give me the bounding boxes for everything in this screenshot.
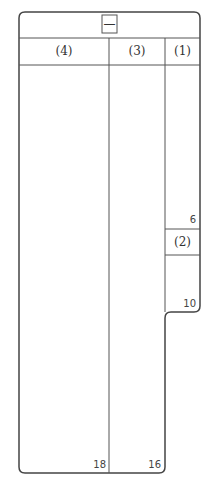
column-4-end-number: 18 (19, 459, 106, 470)
column-4-label: (4) (19, 44, 109, 58)
sub-cell-2-end-number: 10 (165, 298, 196, 309)
column-1-end-number: 6 (165, 214, 196, 225)
sub-cell-2-label: (2) (165, 235, 200, 249)
column-1-label: (1) (165, 44, 200, 58)
header-symbol: — (102, 16, 117, 32)
column-3-label: (3) (109, 44, 165, 58)
column-3-end-number: 16 (109, 459, 161, 470)
